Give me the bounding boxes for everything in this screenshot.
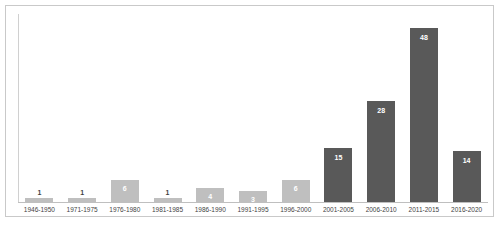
bar-value-label: 15	[324, 153, 352, 162]
bar-group[interactable]: 6	[111, 14, 139, 202]
bars-layer: 116143615284814	[18, 14, 488, 202]
bar-value-label: 14	[453, 156, 481, 165]
bar[interactable]: 6	[282, 180, 310, 202]
bar-value-label: 4	[196, 192, 224, 201]
bar-value-label: 1	[154, 188, 182, 197]
bar-group[interactable]: 15	[324, 14, 352, 202]
x-axis-tick-label: 1971-1975	[61, 205, 104, 215]
x-axis-tick-label: 1976-1980	[103, 205, 146, 215]
bar-group[interactable]: 4	[196, 14, 224, 202]
bar-value-label: 1	[25, 188, 53, 197]
x-axis-tick-label: 1946-1950	[18, 205, 61, 215]
bar-group[interactable]: 1	[154, 14, 182, 202]
x-axis-tick-label: 1996-2000	[274, 205, 317, 215]
x-axis-line	[18, 202, 488, 203]
bar-value-label: 1	[68, 188, 96, 197]
x-axis-tick-label: 2011-2015	[403, 205, 446, 215]
bar-group[interactable]: 28	[367, 14, 395, 202]
bar-value-label: 48	[410, 33, 438, 42]
bar-group[interactable]: 3	[239, 14, 267, 202]
x-axis-tick-label: 1986-1990	[189, 205, 232, 215]
bar[interactable]: 3	[239, 191, 267, 202]
x-axis-tick-label: 1981-1985	[146, 205, 189, 215]
bar-group[interactable]: 48	[410, 14, 438, 202]
bar[interactable]: 15	[324, 148, 352, 202]
bar-group[interactable]: 6	[282, 14, 310, 202]
bar-group[interactable]: 1	[68, 14, 96, 202]
bar-group[interactable]: 14	[453, 14, 481, 202]
bar[interactable]: 14	[453, 151, 481, 202]
chart-frame: 116143615284814 1946-19501971-19751976-1…	[5, 5, 494, 217]
x-axis-tick-labels: 1946-19501971-19751976-19801981-19851986…	[18, 205, 488, 217]
x-axis-tick-label: 2016-2020	[445, 205, 488, 215]
x-axis-tick-label: 2001-2005	[317, 205, 360, 215]
plot-area: 116143615284814	[18, 14, 488, 203]
x-axis-tick-label: 1991-1995	[232, 205, 275, 215]
bar[interactable]: 28	[367, 101, 395, 202]
bar-value-label: 28	[367, 106, 395, 115]
bar-value-label: 6	[111, 184, 139, 193]
bar[interactable]: 4	[196, 188, 224, 202]
bar[interactable]: 48	[410, 28, 438, 202]
bar-group[interactable]: 1	[25, 14, 53, 202]
bar[interactable]: 6	[111, 180, 139, 202]
bar-value-label: 6	[282, 184, 310, 193]
x-axis-tick-label: 2006-2010	[360, 205, 403, 215]
